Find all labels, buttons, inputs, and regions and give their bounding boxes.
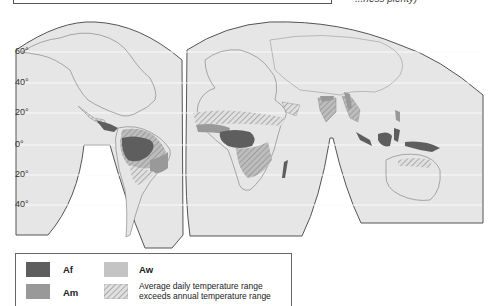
lat-label-0: 0° (15, 139, 24, 149)
map-legend: Af Am Aw Average daily temperature range… (15, 253, 292, 306)
legend-swatch-am (26, 284, 50, 299)
lat-label-20s: 20° (15, 169, 29, 179)
lat-label-60n: 60° (15, 46, 29, 56)
lat-label-40s: 40° (15, 199, 29, 209)
legend-label-aw: Aw (139, 264, 153, 275)
legend-swatch-af (26, 262, 50, 277)
legend-label-hatch: Average daily temperature range exceeds … (139, 281, 271, 301)
legend-swatch-hatch (104, 284, 128, 299)
legend-label-hatch-line1: Average daily temperature range (139, 281, 271, 291)
lat-label-20n: 20° (15, 107, 29, 117)
lat-label-40n: 40° (15, 77, 29, 87)
legend-label-af: Af (63, 264, 73, 275)
legend-label-hatch-line2: exceeds annual temperature range (139, 291, 271, 301)
eastern-lobe (186, 22, 483, 236)
legend-swatch-aw (104, 262, 128, 277)
legend-label-am: Am (63, 287, 78, 298)
americas-lobe (16, 22, 183, 248)
